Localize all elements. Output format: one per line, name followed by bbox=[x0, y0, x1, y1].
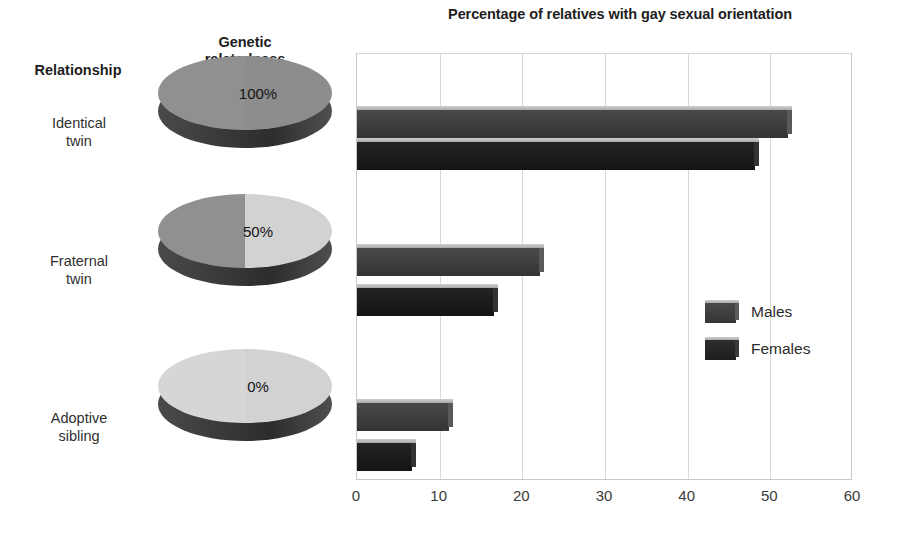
legend-item[interactable]: Males bbox=[705, 300, 810, 323]
bar-face bbox=[357, 109, 788, 138]
chart-root: Percentage of relatives with gay sexual … bbox=[0, 0, 900, 550]
bar-side-bevel bbox=[787, 106, 792, 134]
x-tick-label: 0 bbox=[336, 487, 376, 504]
row-label-line2: twin bbox=[14, 133, 144, 151]
x-tick-label: 40 bbox=[667, 487, 707, 504]
legend-swatch-face bbox=[705, 340, 736, 360]
page-title: Percentage of relatives with gay sexual … bbox=[340, 6, 900, 22]
bar-side-bevel bbox=[539, 244, 544, 272]
genetic-relatedness-disc: 50% bbox=[150, 190, 340, 294]
bar-top-bevel bbox=[357, 106, 792, 110]
bar-side-bevel bbox=[448, 399, 453, 427]
row-label: Adoptivesibling bbox=[14, 410, 144, 445]
row-label-line1: Adoptive bbox=[14, 410, 144, 428]
legend-swatch-side bbox=[735, 300, 739, 320]
legend-swatch bbox=[705, 300, 739, 323]
column-header-relationship: Relationship bbox=[8, 62, 148, 79]
bar-top-bevel bbox=[357, 439, 416, 443]
bar-females-fraternal-twin bbox=[357, 284, 498, 316]
row-label-line1: Identical bbox=[14, 115, 144, 133]
bar-face bbox=[357, 141, 755, 170]
legend-item[interactable]: Females bbox=[705, 337, 810, 360]
bar-females-identical-twin bbox=[357, 138, 759, 170]
legend: MalesFemales bbox=[705, 300, 810, 374]
bar-males-identical-twin bbox=[357, 106, 792, 138]
x-tick-label: 30 bbox=[584, 487, 624, 504]
column-header-genetic-line1: Genetic bbox=[170, 34, 320, 51]
genetic-relatedness-disc: 100% bbox=[150, 52, 340, 156]
bar-face bbox=[357, 402, 449, 431]
bar-top-bevel bbox=[357, 284, 498, 288]
legend-swatch-top bbox=[705, 337, 739, 340]
disc-percent-label: 50% bbox=[158, 194, 332, 268]
row-label-line1: Fraternal bbox=[14, 253, 144, 271]
x-tick-label: 20 bbox=[501, 487, 541, 504]
row-label: Identicaltwin bbox=[14, 115, 144, 150]
legend-swatch bbox=[705, 337, 739, 360]
legend-swatch-top bbox=[705, 300, 739, 303]
plot-area bbox=[356, 53, 852, 480]
x-tick-label: 50 bbox=[749, 487, 789, 504]
bar-side-bevel bbox=[754, 138, 759, 166]
row-label-line2: twin bbox=[14, 271, 144, 289]
legend-swatch-face bbox=[705, 303, 736, 323]
bar-males-fraternal-twin bbox=[357, 244, 544, 276]
disc-percent-label: 100% bbox=[158, 56, 332, 130]
row-label-line2: sibling bbox=[14, 428, 144, 446]
bar-top-bevel bbox=[357, 138, 759, 142]
legend-label: Females bbox=[751, 340, 810, 358]
bar-top-bevel bbox=[357, 244, 544, 248]
bar-side-bevel bbox=[493, 284, 498, 312]
disc-percent-label: 0% bbox=[158, 349, 332, 423]
bar-face bbox=[357, 442, 412, 471]
legend-swatch-side bbox=[735, 337, 739, 357]
genetic-relatedness-disc: 0% bbox=[150, 345, 340, 449]
row-label: Fraternaltwin bbox=[14, 253, 144, 288]
bar-face bbox=[357, 247, 540, 276]
x-tick-label: 10 bbox=[419, 487, 459, 504]
bar-top-bevel bbox=[357, 399, 453, 403]
bar-males-adoptive-sibling bbox=[357, 399, 453, 431]
bar-females-adoptive-sibling bbox=[357, 439, 416, 471]
bar-side-bevel bbox=[411, 439, 416, 467]
x-tick-label: 60 bbox=[832, 487, 872, 504]
legend-label: Males bbox=[751, 303, 792, 321]
bar-face bbox=[357, 287, 494, 316]
